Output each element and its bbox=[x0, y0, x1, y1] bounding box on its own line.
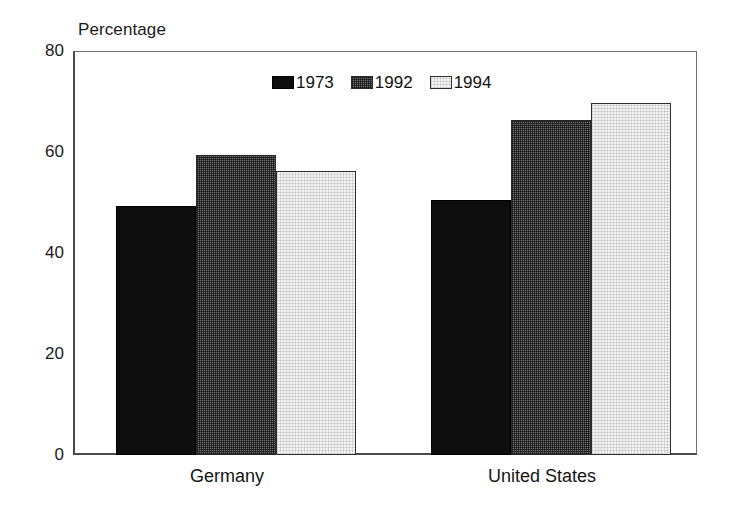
x-tick-label-germany: Germany bbox=[190, 466, 264, 487]
legend-item-1992: 1992 bbox=[351, 74, 413, 91]
chart-legend: 1973 1992 1994 bbox=[272, 74, 491, 91]
y-tick-label-80: 80 bbox=[18, 41, 64, 61]
legend-swatch-1973-icon bbox=[272, 76, 294, 89]
legend-item-1994: 1994 bbox=[430, 74, 492, 91]
legend-label-1992: 1992 bbox=[375, 74, 413, 91]
y-axis-tick-labels: 0 20 40 60 80 bbox=[0, 51, 64, 455]
legend-label-1973: 1973 bbox=[296, 74, 334, 91]
legend-item-1973: 1973 bbox=[272, 74, 334, 91]
y-tick-label-60: 60 bbox=[18, 142, 64, 162]
legend-swatch-1992-icon bbox=[351, 76, 373, 89]
legend-swatch-1994-icon bbox=[430, 76, 452, 89]
x-tick-label-united-states: United States bbox=[488, 466, 596, 487]
bar-united-states-1992 bbox=[511, 120, 591, 455]
y-tick-label-20: 20 bbox=[18, 344, 64, 364]
bar-united-states-1994 bbox=[591, 103, 671, 455]
bar-germany-1994 bbox=[276, 171, 356, 455]
y-axis-title: Percentage bbox=[78, 20, 166, 40]
y-tick-label-40: 40 bbox=[18, 243, 64, 263]
bar-germany-1973 bbox=[116, 206, 196, 455]
legend-label-1994: 1994 bbox=[454, 74, 492, 91]
y-tick-label-0: 0 bbox=[18, 445, 64, 465]
bar-germany-1992 bbox=[196, 155, 276, 455]
bars-layer bbox=[73, 51, 697, 455]
chart-figure: Percentage 0 20 40 60 80 1973 1992 1994 … bbox=[0, 0, 733, 517]
bar-united-states-1973 bbox=[431, 200, 511, 455]
